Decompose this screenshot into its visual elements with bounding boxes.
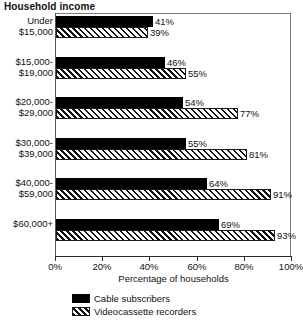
bar-fill [56, 189, 271, 200]
bar-fill [56, 138, 186, 149]
bar-value-label: 54% [183, 97, 204, 108]
category-label: $15,000-$19,000 [0, 56, 53, 78]
x-axis-line [55, 256, 292, 257]
bar-value-label: 81% [247, 149, 268, 160]
x-axis-tick-label: 60% [187, 261, 206, 272]
bar-cable-subscribers[interactable] [56, 219, 219, 230]
category-label: $40,000-$59,000 [0, 177, 53, 199]
bar-value-label: 77% [238, 108, 259, 119]
category-label-line-1: Under [27, 15, 53, 26]
bar-fill [56, 16, 153, 27]
bar-value-label: 55% [186, 68, 207, 79]
category-label-line-1: $15,000- [15, 56, 53, 67]
legend-item[interactable]: Cable subscribers [72, 290, 196, 303]
category-label-line-2: $19,000 [0, 67, 53, 78]
category-label-line-2: $59,000 [0, 188, 53, 199]
bar-vcr[interactable] [56, 189, 271, 200]
bar-value-label: 39% [148, 27, 169, 38]
bar-cable-subscribers[interactable] [56, 16, 153, 27]
bar-fill [56, 108, 238, 119]
x-axis-title: Percentage of households [55, 273, 292, 284]
bar-fill [56, 27, 148, 38]
category-label-line-1: $40,000- [15, 177, 53, 188]
bar-fill [56, 230, 275, 241]
legend-label: Videocassette recorders [94, 306, 196, 317]
bar-cable-subscribers[interactable] [56, 57, 165, 68]
bar-value-label: 91% [271, 189, 292, 200]
bar-value-label: 93% [275, 230, 296, 241]
bar-fill [56, 57, 165, 68]
category-label: Under$15,000 [0, 15, 53, 37]
bar-vcr[interactable] [56, 68, 186, 79]
category-label-line-1: $30,000- [15, 137, 53, 148]
bar-fill [56, 149, 247, 160]
x-axis-tick-label: 0% [48, 261, 62, 272]
category-label-line-1: $60,000+ [13, 218, 53, 229]
bar-fill [56, 178, 207, 189]
legend-swatch-solid-icon [72, 294, 90, 303]
bar-value-label: 64% [207, 178, 228, 189]
bar-cable-subscribers[interactable] [56, 97, 183, 108]
category-label-line-1: $20,000- [15, 96, 53, 107]
chart-legend: Cable subscribersVideocassette recorders [72, 290, 196, 316]
bar-value-label: 46% [165, 57, 186, 68]
bar-fill [56, 97, 183, 108]
x-axis-tick-label: 100% [279, 261, 303, 272]
category-label: $30,000-$39,000 [0, 137, 53, 159]
bar-vcr[interactable] [56, 230, 275, 241]
category-label: $20,000-$29,000 [0, 96, 53, 118]
category-label: $60,000+ [0, 218, 53, 229]
bar-fill [56, 68, 186, 79]
bar-vcr[interactable] [56, 27, 148, 38]
x-axis-tick-label: 80% [234, 261, 253, 272]
legend-item[interactable]: Videocassette recorders [72, 303, 196, 316]
bar-fill [56, 219, 219, 230]
category-label-line-2: $29,000 [0, 107, 53, 118]
category-label-line-2: $39,000 [0, 148, 53, 159]
bar-value-label: 69% [219, 219, 240, 230]
bar-value-label: 41% [153, 16, 174, 27]
bar-value-label: 55% [186, 138, 207, 149]
legend-swatch-hatch-icon [72, 307, 90, 316]
bar-cable-subscribers[interactable] [56, 178, 207, 189]
bar-cable-subscribers[interactable] [56, 138, 186, 149]
bar-vcr[interactable] [56, 108, 238, 119]
x-axis-tick-label: 20% [92, 261, 111, 272]
bar-vcr[interactable] [56, 149, 247, 160]
chart-container: Household income Under$15,00041%39%$15,0… [0, 0, 303, 320]
x-axis-tick-label: 40% [139, 261, 158, 272]
category-label-line-2: $15,000 [0, 26, 53, 37]
chart-title: Household income [4, 1, 95, 12]
